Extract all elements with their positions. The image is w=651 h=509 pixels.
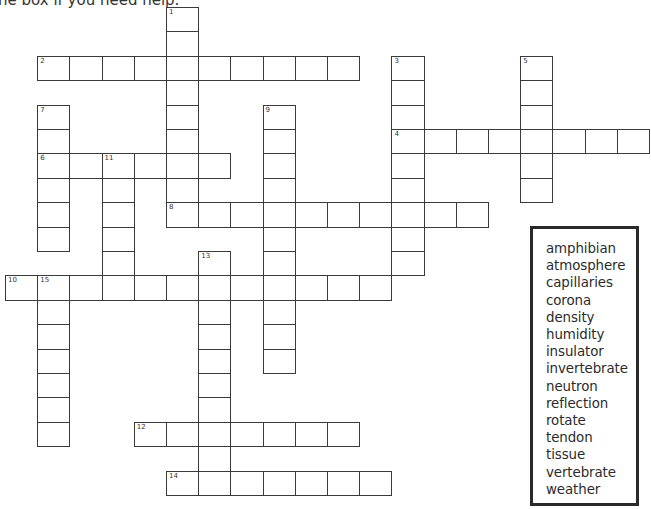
crossword-cell[interactable]: 15 [37,275,70,300]
crossword-cell[interactable] [552,129,585,154]
crossword-cell[interactable] [198,446,231,471]
crossword-cell[interactable] [102,275,135,300]
crossword-cell[interactable] [37,227,70,252]
crossword-cell[interactable]: 10 [5,275,38,300]
crossword-cell[interactable] [263,251,296,276]
crossword-cell[interactable] [520,105,553,130]
crossword-cell[interactable]: 9 [263,105,296,130]
crossword-cell[interactable] [295,275,328,300]
crossword-cell[interactable] [198,324,231,349]
crossword-cell[interactable] [69,275,102,300]
crossword-cell[interactable] [520,80,553,105]
crossword-cell[interactable] [102,178,135,203]
crossword-cell[interactable] [230,56,263,81]
crossword-cell[interactable] [37,422,70,447]
crossword-cell[interactable] [102,202,135,227]
crossword-cell[interactable]: 5 [520,56,553,81]
crossword-cell[interactable] [327,275,360,300]
crossword-cell[interactable] [585,129,618,154]
crossword-cell[interactable] [617,129,650,154]
crossword-cell[interactable] [327,56,360,81]
crossword-cell[interactable] [263,153,296,178]
crossword-cell[interactable] [198,422,231,447]
crossword-cell[interactable]: 2 [37,56,70,81]
crossword-cell[interactable] [456,202,489,227]
crossword-cell[interactable] [198,471,231,496]
crossword-cell[interactable] [327,471,360,496]
crossword-cell[interactable] [134,275,167,300]
crossword-cell[interactable] [102,56,135,81]
crossword-cell[interactable] [488,129,521,154]
crossword-cell[interactable] [166,275,199,300]
crossword-cell[interactable]: 6 [37,153,70,178]
crossword-cell[interactable]: 11 [102,153,135,178]
crossword-cell[interactable]: 8 [166,202,199,227]
crossword-cell[interactable] [391,80,424,105]
crossword-cell[interactable] [295,422,328,447]
crossword-cell[interactable] [198,202,231,227]
crossword-cell[interactable] [263,275,296,300]
crossword-cell[interactable] [198,275,231,300]
crossword-cell[interactable] [230,471,263,496]
crossword-cell[interactable] [166,129,199,154]
crossword-cell[interactable] [230,422,263,447]
crossword-cell[interactable]: 12 [134,422,167,447]
crossword-cell[interactable] [263,56,296,81]
crossword-cell[interactable] [198,153,231,178]
crossword-cell[interactable] [37,373,70,398]
crossword-cell[interactable] [37,129,70,154]
crossword-cell[interactable] [198,56,231,81]
crossword-cell[interactable] [198,373,231,398]
crossword-cell[interactable] [359,275,392,300]
crossword-cell[interactable] [198,300,231,325]
crossword-cell[interactable] [134,56,167,81]
crossword-cell[interactable] [327,202,360,227]
crossword-cell[interactable] [520,153,553,178]
crossword-cell[interactable] [263,349,296,374]
crossword-cell[interactable] [391,178,424,203]
crossword-cell[interactable] [69,56,102,81]
crossword-cell[interactable] [134,153,167,178]
crossword-cell[interactable]: 13 [198,251,231,276]
crossword-cell[interactable] [456,129,489,154]
crossword-cell[interactable]: 3 [391,56,424,81]
crossword-cell[interactable] [263,300,296,325]
crossword-cell[interactable] [198,397,231,422]
crossword-cell[interactable] [37,202,70,227]
crossword-cell[interactable] [37,178,70,203]
crossword-cell[interactable] [359,202,392,227]
crossword-cell[interactable]: 1 [166,7,199,32]
crossword-cell[interactable] [102,227,135,252]
crossword-cell[interactable] [230,275,263,300]
crossword-cell[interactable] [166,178,199,203]
crossword-cell[interactable]: 14 [166,471,199,496]
crossword-cell[interactable] [166,105,199,130]
crossword-cell[interactable] [391,202,424,227]
crossword-cell[interactable] [295,202,328,227]
crossword-cell[interactable] [230,202,263,227]
crossword-cell[interactable] [424,202,457,227]
crossword-cell[interactable] [102,251,135,276]
crossword-cell[interactable] [37,397,70,422]
crossword-cell[interactable] [263,129,296,154]
crossword-cell[interactable] [295,56,328,81]
crossword-cell[interactable] [69,153,102,178]
crossword-cell[interactable] [198,349,231,374]
crossword-cell[interactable] [391,153,424,178]
crossword-cell[interactable]: 7 [37,105,70,130]
crossword-cell[interactable] [263,178,296,203]
crossword-cell[interactable] [166,80,199,105]
crossword-cell[interactable] [263,422,296,447]
crossword-cell[interactable] [263,324,296,349]
crossword-cell[interactable] [263,471,296,496]
crossword-cell[interactable] [37,349,70,374]
crossword-cell[interactable] [520,178,553,203]
crossword-cell[interactable] [166,153,199,178]
crossword-cell[interactable] [37,324,70,349]
crossword-cell[interactable] [327,422,360,447]
crossword-cell[interactable] [263,202,296,227]
crossword-cell[interactable] [166,56,199,81]
crossword-cell[interactable] [391,251,424,276]
crossword-cell[interactable] [263,227,296,252]
crossword-cell[interactable] [520,129,553,154]
